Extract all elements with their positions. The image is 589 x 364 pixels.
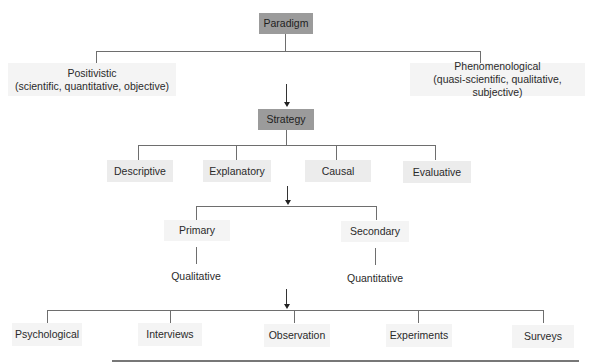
connector: [286, 130, 287, 145]
quantitative-node: Quantitative: [336, 270, 414, 286]
secondary-label: Secondary: [350, 225, 400, 238]
evaluative-node: Evaluative: [403, 161, 471, 183]
connector: [294, 310, 295, 323]
causal-node: Causal: [305, 160, 371, 182]
qualitative-node: Qualitative: [160, 268, 232, 284]
observation-label: Observation: [269, 329, 326, 342]
paradigm-label: Paradigm: [264, 17, 309, 30]
strategy-node: Strategy: [258, 109, 314, 130]
descriptive-node: Descriptive: [107, 160, 173, 182]
connector: [285, 34, 286, 51]
connector: [47, 310, 544, 311]
interviews-node: Interviews: [138, 323, 202, 346]
quantitative-label: Quantitative: [347, 272, 403, 285]
secondary-node: Secondary: [341, 221, 409, 242]
phenomenological-node: Phenomenological (quasi-scientific, qual…: [410, 63, 585, 96]
psychological-node: Psychological: [12, 323, 82, 346]
positivistic-node: Positivistic (scientific, quantitative, …: [8, 63, 176, 96]
surveys-node: Surveys: [512, 325, 574, 348]
phenomenological-label: Phenomenological: [454, 60, 540, 73]
psychological-label: Psychological: [15, 328, 79, 341]
connector: [418, 310, 419, 323]
phenomenological-sublabel: (quasi-scientific, qualitative, subjecti…: [410, 73, 585, 99]
experiments-node: Experiments: [386, 324, 452, 347]
connector: [376, 206, 377, 220]
bottom-divider: [112, 360, 579, 362]
interviews-label: Interviews: [146, 328, 193, 341]
connector: [336, 145, 337, 160]
primary-node: Primary: [164, 220, 230, 241]
connector: [435, 145, 436, 160]
primary-label: Primary: [179, 224, 215, 237]
qualitative-label: Qualitative: [171, 270, 221, 283]
explanatory-label: Explanatory: [209, 165, 264, 178]
explanatory-node: Explanatory: [203, 160, 271, 182]
observation-node: Observation: [264, 324, 330, 347]
down-arrow-icon: [287, 186, 288, 201]
positivistic-label: Positivistic: [67, 67, 116, 80]
descriptive-label: Descriptive: [114, 165, 166, 178]
down-arrow-icon: [286, 289, 287, 305]
positivistic-sublabel: (scientific, quantitative, objective): [15, 80, 169, 93]
connector: [375, 248, 376, 265]
strategy-label: Strategy: [266, 113, 305, 126]
down-arrow-icon: [286, 84, 287, 103]
connector: [138, 145, 436, 146]
connector: [196, 206, 197, 220]
connector: [96, 51, 481, 52]
causal-label: Causal: [322, 165, 355, 178]
connector: [196, 247, 197, 264]
connector: [96, 51, 97, 63]
connector: [138, 145, 139, 160]
surveys-label: Surveys: [524, 330, 562, 343]
evaluative-label: Evaluative: [413, 166, 461, 179]
connector: [196, 206, 377, 207]
paradigm-node: Paradigm: [259, 13, 313, 34]
experiments-label: Experiments: [390, 329, 448, 342]
connector: [170, 310, 171, 323]
connector: [543, 310, 544, 323]
connector: [47, 310, 48, 323]
connector: [236, 145, 237, 160]
